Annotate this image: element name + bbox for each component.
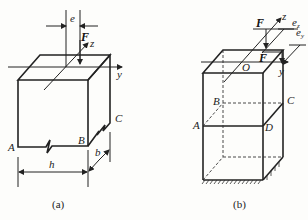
force-label: F (80, 30, 89, 44)
corner-c-label: C (115, 112, 123, 124)
dim-b-arrow-down (89, 160, 99, 171)
corner-b-label: B (213, 95, 220, 107)
ecc-diagonal-2 (282, 45, 300, 64)
ecc-y-label: ey (296, 26, 305, 40)
corner-a-label: A (192, 119, 200, 131)
corner-a-label: A (7, 141, 15, 153)
force-top-label: F (255, 16, 264, 30)
hidden-bottom-left (203, 157, 223, 180)
corner-d-label: D (264, 121, 273, 133)
corner-b-label: B (78, 134, 85, 146)
dim-b-arrow-up (99, 150, 109, 160)
z-axis-label: z (281, 10, 287, 22)
origin-label: O (242, 61, 250, 73)
ecc-label: e (70, 12, 75, 24)
y-axis-label: y (278, 65, 284, 77)
block-side-face (88, 55, 110, 146)
prism-bottom-right-edge (263, 157, 283, 180)
caption-a: (a) (52, 198, 65, 211)
figure-b: y z O F ez ey F B C A D (b) (192, 10, 306, 211)
force-mid-label: F (258, 51, 267, 65)
dim-b-label: b (95, 146, 101, 158)
figure-a: y z e F A B C h b (a) (7, 10, 123, 211)
dim-h-label: h (49, 158, 55, 170)
z-axis-label: z (89, 37, 95, 49)
corner-c-label: C (287, 94, 295, 106)
y-axis-label: y (116, 68, 122, 80)
caption-b: (b) (233, 198, 246, 211)
